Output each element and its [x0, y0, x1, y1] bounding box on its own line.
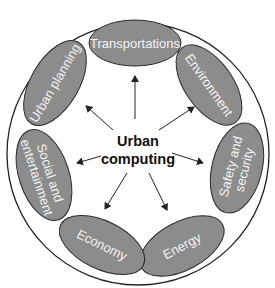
node-safety-security: Safety and security [202, 117, 273, 218]
arrow-to-safety [172, 153, 203, 163]
arrow-to-urban-planning [86, 106, 113, 130]
center-label-line1: Urban [117, 133, 159, 149]
node-economy: Economy [50, 203, 154, 286]
urban-computing-diagram: Transportations Environment Safety and s… [0, 0, 275, 288]
node-transportations: Transportations [89, 20, 181, 66]
arrow-to-energy [149, 173, 167, 210]
center-label-line2: computing [101, 151, 175, 167]
node-energy: Energy [130, 203, 234, 288]
arrow-to-environment [159, 107, 194, 130]
node-social-entertainment: Social and entertainment [6, 123, 83, 228]
arrow-to-social [77, 156, 101, 163]
node-transportations-label: Transportations [90, 36, 180, 51]
node-urban-planning: Urban planning [11, 30, 100, 135]
center-label: Urban computing [101, 133, 175, 167]
arrow-to-economy [105, 173, 127, 209]
